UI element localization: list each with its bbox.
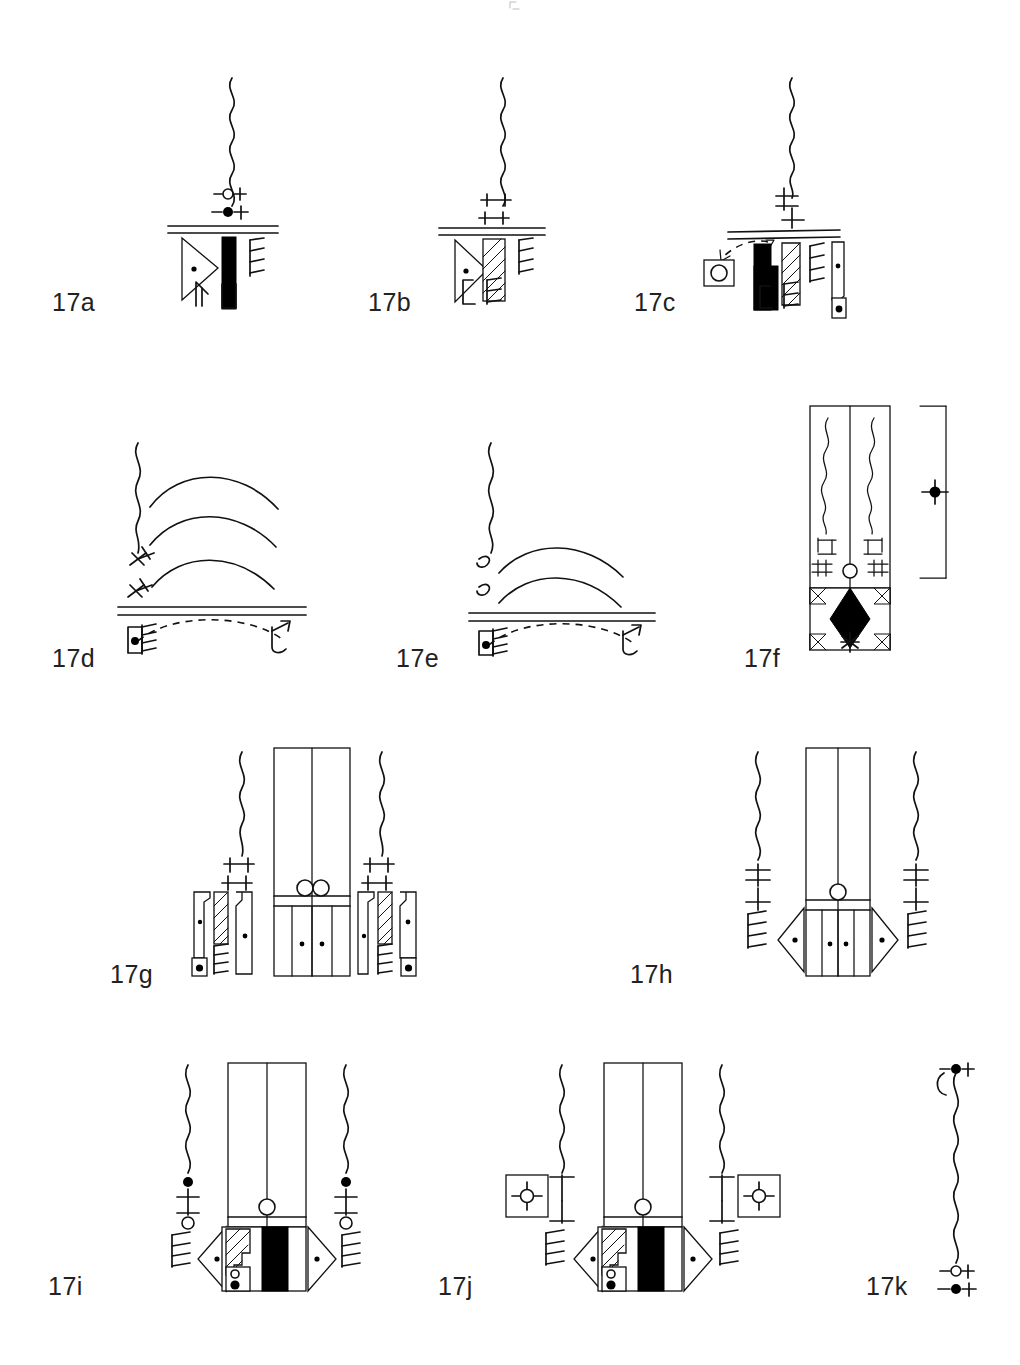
cross-marker-left bbox=[177, 1189, 199, 1215]
centre-ring bbox=[843, 564, 857, 578]
boxed-ring-detail bbox=[704, 260, 734, 286]
panel-label-17b: 17b bbox=[368, 288, 411, 317]
panel-17j bbox=[480, 1055, 780, 1300]
filled-bead-cross-marker bbox=[938, 1283, 976, 1296]
figure-17-root: 17a bbox=[0, 0, 1020, 1365]
dotted-blade-right-outer bbox=[358, 892, 374, 974]
dashed-arc-link bbox=[138, 620, 282, 641]
boxed-dot-cross-callout-left bbox=[506, 1175, 548, 1217]
double-groundline bbox=[439, 228, 545, 235]
filled-bead-cross-marker bbox=[212, 206, 248, 219]
cell-dot-right bbox=[320, 942, 325, 947]
double-groundline bbox=[168, 226, 278, 233]
wavy-stem-left bbox=[756, 752, 761, 860]
panel-17b bbox=[425, 70, 595, 310]
wavy-stem-right bbox=[720, 1065, 725, 1173]
dot-ring-box bbox=[602, 1267, 626, 1291]
comb-feather-left bbox=[214, 944, 228, 974]
panel-label-17g: 17g bbox=[110, 960, 153, 989]
cell-dot-left bbox=[300, 942, 305, 947]
cross-marker-right bbox=[335, 1189, 357, 1215]
cross-bar-marker-right bbox=[904, 888, 928, 910]
panel-label-17e: 17e bbox=[396, 644, 439, 673]
t-bar-marker-left-upper bbox=[550, 1175, 574, 1201]
top-hook bbox=[937, 1073, 946, 1095]
top-marker-group bbox=[940, 1063, 974, 1076]
panel-label-17a: 17a bbox=[52, 288, 95, 317]
solid-black-panel bbox=[262, 1227, 288, 1291]
open-bead-cross-marker bbox=[214, 188, 246, 200]
dotted-blade-left-outer bbox=[194, 892, 210, 958]
comb-feather-left bbox=[748, 911, 766, 948]
dotted-triangle-blade-right bbox=[684, 1227, 712, 1291]
panel-label-17f: 17f bbox=[744, 644, 780, 673]
s-curl-marker-lower bbox=[477, 585, 489, 596]
comb-feather-right bbox=[908, 911, 926, 948]
wavy-stem bbox=[501, 78, 506, 206]
wavy-stem-left bbox=[186, 1065, 191, 1173]
dot-box-hatched-glyph bbox=[128, 624, 156, 654]
panel-17i bbox=[110, 1055, 390, 1300]
base-dot-box-left bbox=[192, 958, 207, 976]
filled-bead-marker-right bbox=[341, 1177, 351, 1187]
open-ring-marker-left bbox=[182, 1217, 194, 1229]
nested-arc-outer bbox=[150, 477, 278, 509]
t-bar-marker-left-lower bbox=[550, 1201, 574, 1223]
nested-arc-outer bbox=[499, 548, 623, 577]
double-bar-marker-upper bbox=[481, 194, 511, 206]
t-bar-marker-left bbox=[746, 864, 770, 886]
dotted-triangle-blade-right bbox=[872, 908, 898, 972]
wavy-cord bbox=[954, 1073, 959, 1263]
panel-17a bbox=[150, 70, 320, 310]
hatched-bar-left bbox=[214, 892, 228, 944]
comb-feather-right bbox=[720, 1230, 738, 1265]
t-bar-marker-right-upper bbox=[710, 1175, 734, 1201]
dotted-blade bbox=[832, 242, 844, 304]
panel-17g bbox=[170, 740, 450, 985]
panel-17e bbox=[455, 435, 675, 655]
cross-bar-marker-lower bbox=[782, 208, 804, 228]
panel-label-17k: 17k bbox=[866, 1272, 908, 1301]
panel-17f bbox=[800, 400, 980, 660]
x-cross-marker-upper bbox=[130, 547, 154, 565]
dotted-triangle-blade bbox=[455, 240, 487, 302]
comb-feather bbox=[519, 238, 533, 274]
solid-black-bar-extension bbox=[754, 266, 778, 310]
open-bead-cross-marker bbox=[940, 1265, 974, 1278]
comb-feather bbox=[810, 243, 824, 282]
panel-label-17d: 17d bbox=[52, 644, 95, 673]
centre-ring bbox=[830, 884, 846, 900]
dot-box-hatched-glyph bbox=[479, 628, 507, 656]
panel-17k bbox=[920, 1055, 1010, 1300]
double-groundline bbox=[469, 613, 655, 621]
panel-label-17c: 17c bbox=[634, 288, 676, 317]
t-bar-marker-right bbox=[904, 864, 928, 886]
wavy-stem bbox=[136, 443, 141, 553]
panel-label-17j: 17j bbox=[438, 1272, 473, 1301]
dotted-triangle-blade-right bbox=[308, 1227, 336, 1291]
wavy-stem-right bbox=[380, 752, 385, 856]
boxed-dot-cross-callout-right bbox=[738, 1175, 780, 1217]
wavy-stem bbox=[790, 78, 795, 198]
double-groundline bbox=[728, 230, 840, 239]
cross-bar-marker-left bbox=[746, 888, 770, 910]
hatched-bar-right bbox=[378, 892, 392, 944]
panel-label-17h: 17h bbox=[630, 960, 673, 989]
double-bar-marker-lower bbox=[479, 212, 509, 224]
dashed-arc-link bbox=[489, 624, 633, 645]
dot-ring-box bbox=[226, 1267, 250, 1291]
cell-dot-right bbox=[844, 942, 849, 947]
cross-bar-marker-upper bbox=[776, 188, 798, 210]
wavy-stem-right bbox=[344, 1065, 349, 1173]
comb-feather-right bbox=[342, 1232, 360, 1267]
wavy-stem-right bbox=[914, 752, 919, 860]
dotted-blade-left-inner bbox=[236, 892, 252, 974]
wavy-stem bbox=[489, 443, 494, 553]
double-bar-marker-right bbox=[362, 858, 394, 890]
panel-17d bbox=[110, 435, 330, 655]
t-bar-marker-right-lower bbox=[710, 1201, 734, 1223]
panel-label-17i: 17i bbox=[48, 1272, 83, 1301]
comb-feather-left bbox=[546, 1230, 564, 1265]
nested-arc-inner bbox=[499, 578, 621, 607]
open-ring-marker-right bbox=[340, 1217, 352, 1229]
